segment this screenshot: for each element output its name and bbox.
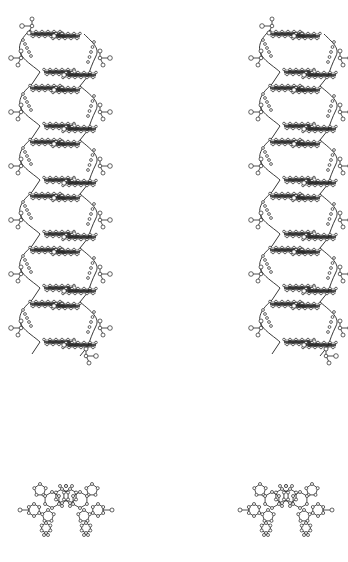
stereo-helix-figure: Stereo pair views of a double-helical mo… <box>0 0 348 562</box>
helix-side-view-left <box>0 0 174 350</box>
helix-top-view-left <box>0 480 174 562</box>
helix-side-view-right <box>174 0 348 350</box>
helix-top-view-right <box>174 480 348 562</box>
